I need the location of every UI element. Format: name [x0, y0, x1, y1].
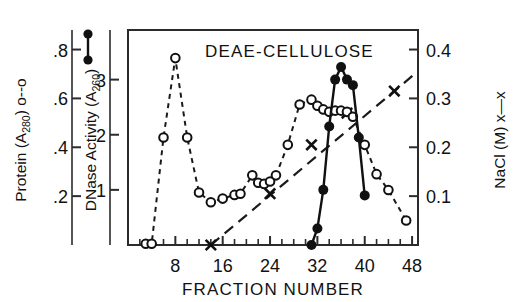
- dnase-marker: [348, 80, 358, 90]
- protein-marker: [283, 141, 292, 150]
- nacl-marker: [389, 86, 399, 96]
- dnase-line: [312, 67, 365, 245]
- chart-title: DEAE-CELLULOSE: [205, 42, 374, 61]
- protein-marker: [159, 133, 168, 142]
- right-tick-label-0.3: 0.3: [426, 89, 451, 109]
- x-tick-label-16: 16: [213, 256, 233, 276]
- left-outer-axis-ticks: [72, 50, 81, 197]
- protein-marker: [183, 133, 192, 142]
- protein-marker: [195, 188, 204, 197]
- protein-marker: [295, 100, 304, 109]
- series-dnase: [306, 62, 369, 250]
- dnase-marker: [330, 75, 340, 85]
- dnase-legend-marker-bottom: [83, 55, 92, 64]
- right-tick-label-0.2: 0.2: [426, 138, 451, 158]
- nacl-marker: [306, 140, 316, 150]
- series-protein: [141, 54, 410, 248]
- right-axis-title: NaCl (M) x—x: [491, 91, 508, 189]
- dnase-legend-symbol: [83, 29, 92, 64]
- dnase-marker: [324, 121, 334, 131]
- protein-marker: [272, 171, 281, 180]
- dnase-marker: [318, 185, 328, 195]
- x-tick-label-48: 48: [402, 256, 422, 276]
- dnase-marker: [354, 133, 364, 143]
- protein-marker: [236, 189, 245, 198]
- x-axis-title: FRACTION NUMBER: [182, 280, 364, 299]
- protein-marker: [384, 186, 393, 195]
- protein-marker: [218, 194, 227, 203]
- x-tick-label-40: 40: [355, 256, 375, 276]
- left-outer-tick-label-.6: .6: [53, 89, 68, 109]
- left-inner-axis-ticks: [110, 80, 119, 190]
- right-tick-label-0.4: 0.4: [426, 41, 451, 61]
- protein-marker: [207, 198, 216, 207]
- dnase-marker: [360, 190, 370, 200]
- protein-marker: [171, 54, 180, 63]
- x-tick-label-8: 8: [170, 256, 180, 276]
- right-tick-label-0.1: 0.1: [426, 187, 451, 207]
- right-axis-tick-labels: 0.10.20.30.4: [426, 41, 451, 208]
- x-tick-label-32: 32: [307, 256, 327, 276]
- left-outer-axis: .2.4.6.8 Protein (A280) o--o: [12, 30, 81, 245]
- protein-marker: [402, 216, 411, 225]
- dnase-marker: [306, 240, 316, 250]
- protein-marker: [360, 141, 369, 150]
- left-outer-tick-label-.8: .8: [53, 41, 68, 61]
- dnase-legend-marker-top: [83, 29, 92, 38]
- x-axis-ticks: [140, 236, 412, 245]
- protein-marker: [372, 170, 381, 179]
- chart-canvas: DEAE-CELLULOSE 81624324048 FRACTION NUMB…: [0, 0, 527, 302]
- left-outer-axis-title: Protein (A280) o--o: [12, 78, 32, 202]
- protein-marker: [147, 239, 156, 248]
- left-outer-tick-label-.2: .2: [53, 187, 68, 207]
- right-axis-ticks: [409, 50, 418, 197]
- left-outer-axis-tick-labels: .2.4.6.8: [53, 41, 68, 208]
- left-outer-tick-label-.4: .4: [53, 138, 68, 158]
- protein-line: [146, 58, 406, 244]
- right-axis: 0.10.20.30.4 NaCl (M) x—x: [409, 41, 508, 208]
- chromatography-figure: DEAE-CELLULOSE 81624324048 FRACTION NUMB…: [0, 0, 527, 302]
- plot-frame: [128, 30, 418, 245]
- x-axis-tick-labels: 81624324048: [170, 256, 422, 276]
- dnase-marker: [336, 62, 346, 72]
- dnase-marker: [312, 223, 322, 233]
- x-tick-label-24: 24: [260, 256, 280, 276]
